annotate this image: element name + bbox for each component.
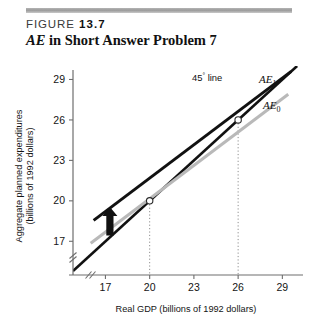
y-tick-label: 17 xyxy=(53,235,65,247)
chart-area: 1720232629 1720232629 AE1 AE0 45° line R… xyxy=(0,58,311,329)
x-tick-label: 23 xyxy=(188,281,200,293)
curve-ae1 xyxy=(94,71,292,220)
figure-title-rest: in Short Answer Problem 7 xyxy=(45,32,216,48)
x-tick-label: 20 xyxy=(144,281,156,293)
curves xyxy=(73,66,297,271)
y-tick-label: 23 xyxy=(53,154,65,166)
y-axis-title-line2: (billions of 1992 dollars) xyxy=(25,127,35,224)
line-45-degree xyxy=(73,66,297,271)
equilibrium-point-2 xyxy=(235,117,241,123)
equilibrium-point-1 xyxy=(146,198,152,204)
y-tick-label: 29 xyxy=(53,73,65,85)
y-tick-label: 26 xyxy=(53,114,65,126)
x-axis-title: Real GDP (billions of 1992 dollars) xyxy=(116,304,257,314)
figure-header: FIGURE 13.7 AE in Short Answer Problem 7 xyxy=(26,8,292,49)
line-45-label: 45° line xyxy=(192,72,222,83)
y-axis-title-line1: Aggregate planned expenditures xyxy=(14,109,24,242)
x-axis-ticks xyxy=(105,275,282,279)
header-rule xyxy=(26,8,292,13)
figure-title-italic: AE xyxy=(26,32,45,48)
figure-title: AE in Short Answer Problem 7 xyxy=(26,32,292,49)
curve-label-ae1: AE1 xyxy=(258,73,276,88)
figure-number-line: FIGURE 13.7 xyxy=(26,18,292,30)
y-tick-label: 20 xyxy=(53,194,65,206)
ae-chart-svg: 1720232629 1720232629 AE1 AE0 45° line R… xyxy=(0,58,311,329)
figure-number: 13.7 xyxy=(79,18,106,30)
curve-ae0 xyxy=(91,94,289,243)
x-tick-labels: 1720232629 xyxy=(100,281,289,293)
x-tick-label: 17 xyxy=(100,281,112,293)
x-tick-label: 29 xyxy=(277,281,289,293)
figure-word: FIGURE xyxy=(26,18,75,30)
x-tick-label: 26 xyxy=(232,281,244,293)
y-tick-labels: 1720232629 xyxy=(53,73,65,247)
